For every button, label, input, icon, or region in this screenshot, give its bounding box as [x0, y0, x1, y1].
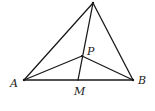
label-A: A — [9, 77, 18, 90]
vertex-B — [132, 79, 134, 81]
segment-CA — [24, 3, 93, 80]
label-P: P — [86, 45, 95, 58]
point-P — [81, 55, 83, 57]
geometry-diagram: A B P M — [0, 0, 155, 111]
label-B: B — [137, 74, 146, 87]
segment-PA — [24, 56, 82, 80]
segment-CB — [93, 3, 133, 80]
segment-PB — [82, 56, 133, 80]
vertex-C — [92, 2, 94, 4]
label-M: M — [73, 85, 86, 98]
segment-CM — [78, 3, 93, 80]
vertex-A — [23, 79, 25, 81]
